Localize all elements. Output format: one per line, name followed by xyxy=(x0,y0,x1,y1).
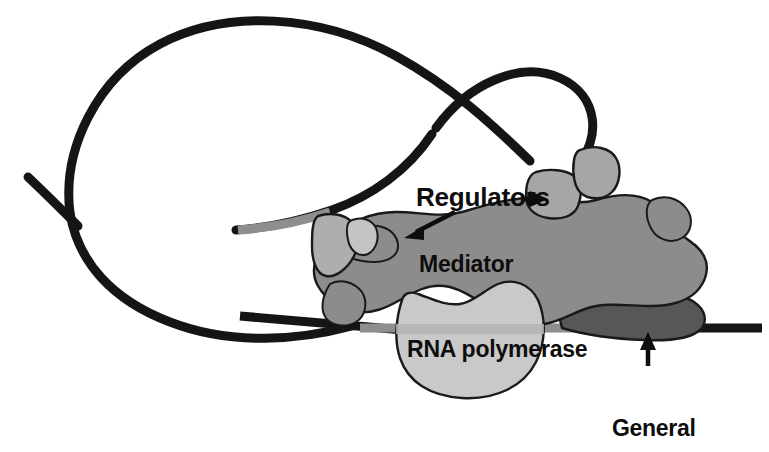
label-mediator: Mediator xyxy=(419,253,513,277)
label-gtf-line1: General xyxy=(612,417,749,441)
mediator-left-foot xyxy=(323,281,366,325)
label-general-transcription-factor: General transcription factor xyxy=(612,369,749,452)
regulator-left-notch xyxy=(347,218,378,255)
figure-root: Regulators Mediator RNA polymerase Gener… xyxy=(0,0,769,452)
label-regulators: Regulators xyxy=(416,184,550,211)
rna-polymerase-dna-shadow xyxy=(396,324,544,334)
label-rna-polymerase: RNA polymerase xyxy=(407,338,587,362)
regulator-right-upper-shape xyxy=(573,147,619,198)
